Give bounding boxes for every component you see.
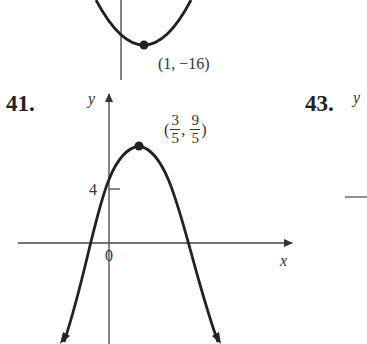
problem-number-41: 41.: [6, 91, 35, 117]
paren-open: (: [164, 121, 169, 139]
paren-close: ): [201, 121, 206, 139]
top-parabola: [96, 0, 191, 45]
x-axis-label-41: x: [280, 252, 287, 270]
y-tick-label-4: 4: [89, 181, 97, 199]
graphs-canvas: [0, 0, 367, 344]
origin-label: 0: [105, 247, 113, 265]
x-denominator: 5: [172, 131, 180, 146]
y-axis-label-43: y: [353, 89, 360, 107]
x-numerator: 3: [172, 113, 180, 128]
fraction-y: 9 5: [190, 113, 200, 146]
y-denominator: 5: [192, 131, 200, 146]
right-arrowhead: [212, 332, 221, 344]
top-vertex-point: [140, 41, 149, 50]
comma: ,: [181, 121, 185, 139]
parabola-41: [64, 146, 218, 342]
top-vertex-label: (1, −16): [158, 55, 210, 73]
vertex-label-41: ( 3 5 , 9 5 ): [164, 113, 207, 146]
y-numerator: 9: [192, 113, 200, 128]
problem-number-43: 43.: [305, 91, 334, 117]
y-axis-label-41: y: [88, 90, 95, 108]
vertex-point-41: [135, 142, 144, 151]
graph-41: [18, 94, 292, 344]
fraction-x: 3 5: [170, 113, 180, 146]
